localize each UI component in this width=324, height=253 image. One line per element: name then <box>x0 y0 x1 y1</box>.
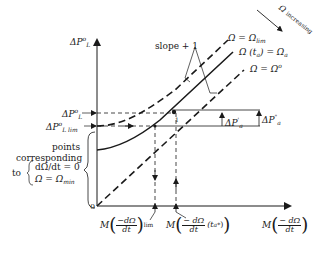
dp-a-prime-label: ΔP'a <box>225 117 243 129</box>
x-tick-lim-label: M ( −dΩdt )lim <box>100 216 153 234</box>
x-tick-ta-label: M ( − dΩdt (ta*) ) <box>166 216 230 234</box>
condition-derivative-zero: dΩ/dt = 0 <box>35 163 80 172</box>
curve-label-omega-a: Ω (ta) = Ωa <box>239 48 288 58</box>
y-axis-label: ΔPoL <box>70 36 90 48</box>
curve-label-omega-0: Ω = Ωo <box>250 63 282 74</box>
condition-omega-min: Ω = Ωmin <box>35 175 75 185</box>
brace-text-to: to <box>12 169 21 178</box>
curve-omega-0 <box>97 70 244 206</box>
brace-text-points: points <box>52 143 80 152</box>
x-axis-label: M ( − dΩdt ) <box>262 216 308 234</box>
curve-label-omega-lim: Ω = Ωlim <box>228 34 266 44</box>
point-marker-label: 1 <box>175 117 179 123</box>
point-1 <box>172 110 176 114</box>
small-brace <box>27 161 33 185</box>
slope-label: slope + 1 <box>155 42 198 51</box>
brace <box>84 132 95 208</box>
omega-increasing-arrow <box>257 10 282 31</box>
dp-l-lim-label: ΔPoL lim <box>46 121 78 133</box>
origin-label: 0 <box>90 203 95 211</box>
curve-omega-a <box>97 52 233 150</box>
dp-l-label: ΔPoL <box>62 108 82 120</box>
dp-a-dprime-label: ΔP"a <box>262 114 281 126</box>
